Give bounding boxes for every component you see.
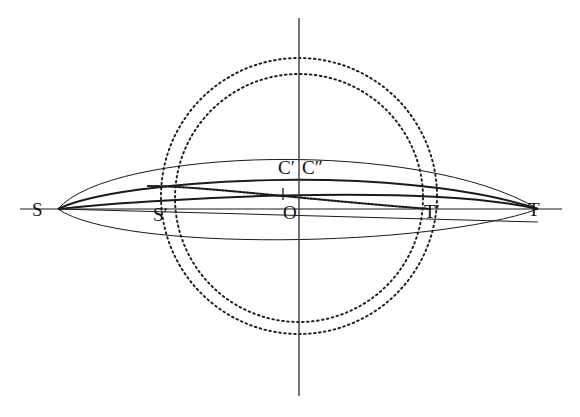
- lens-upper-arc: [58, 159, 538, 209]
- point-label-C-prime: C′: [278, 158, 295, 177]
- point-label-O: O: [283, 203, 297, 222]
- point-label-T: T: [528, 200, 540, 219]
- geometric-figure: S S′ O C′ C″ T′ T: [0, 0, 580, 417]
- lens-lower-arc: [58, 209, 538, 240]
- point-label-C-second: C″: [302, 158, 323, 177]
- point-label-T-prime: T′: [424, 202, 440, 221]
- slanted-chord: [58, 209, 538, 222]
- point-label-S: S: [32, 200, 43, 219]
- point-label-S-prime: S′: [153, 205, 168, 224]
